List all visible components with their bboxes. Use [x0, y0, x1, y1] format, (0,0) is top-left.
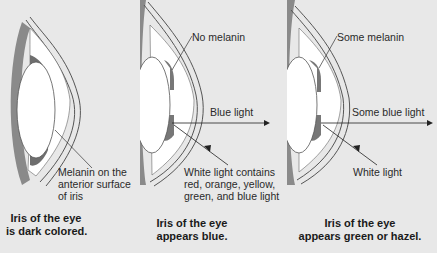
- caption-line-1: Iris of the eye: [295, 217, 425, 230]
- some-blue-light-label: Some blue light: [352, 106, 424, 118]
- panel-green-iris: Some melanin Some blue light White light…: [287, 0, 437, 253]
- label-line-2: red, orange, yellow,: [184, 178, 279, 190]
- label-line-2: anterior surface: [58, 178, 131, 190]
- panel-blue-iris: No melanin Blue light White light contai…: [140, 0, 290, 253]
- label-line-3: of iris: [58, 190, 131, 202]
- caption-line-2: appears green or hazel.: [295, 230, 425, 243]
- caption-line-1: Iris of the eye: [154, 217, 230, 230]
- label-line-1: Melanin on the: [58, 166, 131, 178]
- caption-line-2: appears blue.: [154, 230, 230, 243]
- panel-dark-iris: Melanin on the anterior surface of iris …: [0, 0, 145, 253]
- label-line-1: White light: [353, 166, 402, 178]
- caption-line-1: Iris of the eye: [6, 212, 86, 225]
- white-light-contains-label: White light contains red, orange, yellow…: [184, 166, 279, 202]
- no-melanin-label: No melanin: [192, 31, 245, 43]
- some-melanin-label: Some melanin: [337, 31, 404, 43]
- caption-dark: Iris of the eye is dark colored.: [6, 212, 86, 238]
- label-line-1: White light contains: [184, 166, 279, 178]
- melanin-anterior-label: Melanin on the anterior surface of iris: [58, 166, 131, 202]
- caption-line-2: is dark colored.: [6, 225, 86, 238]
- caption-blue: Iris of the eye appears blue.: [154, 217, 230, 243]
- white-light-label: White light: [353, 166, 402, 178]
- blue-light-label: Blue light: [210, 106, 253, 118]
- label-line-3: green, and blue light: [184, 190, 279, 202]
- caption-green: Iris of the eye appears green or hazel.: [295, 217, 425, 243]
